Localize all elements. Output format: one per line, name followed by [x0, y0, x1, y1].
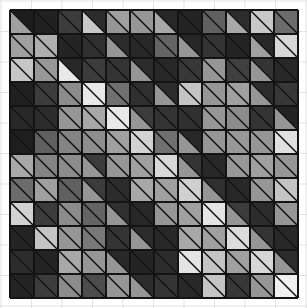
- figure-root: [0, 0, 307, 308]
- split-tile-pattern: [0, 0, 307, 308]
- tile-pattern-container: [0, 0, 307, 308]
